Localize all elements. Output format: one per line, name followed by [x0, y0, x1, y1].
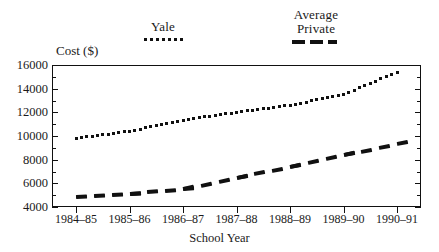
data-point-dotted: [107, 133, 110, 136]
data-point-dashed: [236, 173, 247, 179]
data-point-dashed: [290, 163, 302, 169]
data-point-dashed: [272, 166, 283, 172]
data-point-dotted: [85, 135, 88, 138]
data-point-dashed: [361, 147, 372, 153]
data-point-dotted: [123, 130, 126, 133]
data-point-dotted: [235, 111, 238, 114]
data-point-dotted: [187, 118, 190, 121]
data-point-dashed: [165, 188, 176, 192]
data-point-dotted: [165, 122, 168, 125]
data-point-dashed: [200, 181, 212, 187]
data-point-dotted: [155, 124, 158, 127]
data-point-dotted: [369, 82, 372, 85]
data-point-dotted: [96, 134, 99, 137]
data-point-dotted: [117, 131, 120, 134]
data-point-dotted: [305, 101, 308, 104]
data-point-dotted: [251, 109, 254, 112]
series-layer: [0, 0, 439, 252]
data-point-dashed: [218, 177, 230, 183]
data-point-dashed: [343, 151, 354, 157]
data-point-dotted: [390, 73, 393, 76]
data-point-dotted: [353, 89, 356, 92]
data-point-dotted: [91, 135, 94, 138]
data-point-dotted: [289, 104, 292, 107]
data-point-dotted: [342, 93, 345, 96]
data-point-dotted: [363, 84, 366, 87]
data-point-dashed: [112, 192, 123, 196]
data-point-dotted: [385, 75, 388, 78]
data-point-dotted: [208, 115, 211, 118]
data-point-dashed: [307, 159, 319, 165]
data-point-dashed: [76, 194, 87, 198]
data-point-dotted: [337, 94, 340, 97]
data-point-dotted: [224, 112, 227, 115]
data-point-dotted: [75, 137, 78, 140]
data-point-dotted: [256, 108, 259, 111]
data-point-dotted: [294, 103, 297, 106]
data-point-dotted: [321, 97, 324, 100]
data-point-dashed: [94, 193, 105, 197]
data-point-dotted: [310, 99, 313, 102]
data-point-dotted: [160, 123, 163, 126]
data-point-dotted: [347, 91, 350, 94]
data-point-dotted: [171, 121, 174, 124]
data-point-dashed: [254, 170, 265, 176]
data-point-dotted: [315, 98, 318, 101]
data-point-dotted: [230, 112, 233, 115]
data-point-dotted: [176, 120, 179, 123]
data-point-dotted: [214, 114, 217, 117]
data-point-dashed: [379, 144, 390, 150]
data-point-dashed: [147, 189, 158, 193]
data-point-dashed: [325, 155, 337, 161]
data-point-dotted: [374, 80, 377, 83]
data-point-dotted: [272, 106, 275, 109]
data-point-dotted: [112, 132, 115, 135]
data-point-dotted: [128, 130, 131, 133]
data-point-dotted: [396, 71, 399, 74]
data-point-dotted: [149, 125, 152, 128]
data-point-dotted: [358, 86, 361, 89]
data-point-dotted: [133, 129, 136, 132]
data-point-dotted: [139, 128, 142, 131]
data-point-dotted: [240, 110, 243, 113]
data-point-dotted: [198, 116, 201, 119]
data-point-dotted: [101, 133, 104, 136]
data-point-dotted: [267, 107, 270, 110]
data-point-dotted: [278, 105, 281, 108]
data-point-dotted: [144, 126, 147, 129]
data-point-dotted: [262, 107, 265, 110]
data-point-dotted: [192, 117, 195, 120]
data-point-dotted: [326, 96, 329, 99]
data-point-dotted: [246, 109, 249, 112]
data-point-dashed: [397, 140, 408, 146]
data-point-dotted: [219, 113, 222, 116]
chart-figure: Yale Average Private Cost ($) 1600014000…: [0, 0, 439, 252]
data-point-dotted: [80, 136, 83, 139]
data-point-dotted: [299, 102, 302, 105]
data-point-dashed: [129, 191, 140, 195]
data-point-dotted: [182, 119, 185, 122]
data-point-dotted: [203, 115, 206, 118]
data-point-dotted: [331, 95, 334, 98]
data-point-dotted: [379, 77, 382, 80]
data-point-dotted: [283, 104, 286, 107]
